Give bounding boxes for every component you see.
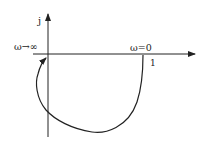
real-point-label: 1	[150, 58, 156, 68]
nyquist-diagram: j ω→∞ ω=0 1	[0, 0, 207, 149]
imag-axis-label: j	[37, 15, 41, 26]
nyquist-curve	[37, 55, 143, 132]
omega-zero-label: ω=0	[130, 42, 152, 53]
omega-infinity-label: ω→∞	[14, 41, 38, 52]
